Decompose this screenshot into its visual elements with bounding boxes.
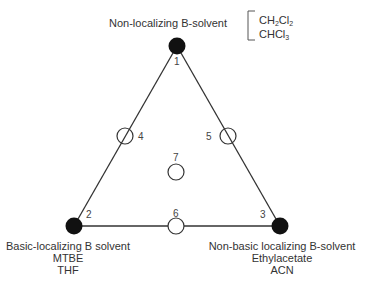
mixture-node-7 <box>168 164 184 180</box>
node-number-3: 3 <box>260 210 266 220</box>
vertex-node-2 <box>66 218 83 235</box>
vertex-1-examples: CH2Cl2 CHCl3 <box>259 13 293 41</box>
vertex-3-title: Non-basic localizing B-solvent <box>209 240 356 252</box>
vertex-2-example-1: MTBE <box>6 252 130 264</box>
vertex-1-label: Non-localizing B-solvent <box>109 17 227 29</box>
vertex-2-label: Basic-localizing B solvent MTBE THF <box>6 240 130 276</box>
mixture-node-6 <box>168 218 184 234</box>
node-number-2: 2 <box>86 210 92 220</box>
edge-1-3 <box>177 46 280 226</box>
example-dichloromethane: CH2Cl2 <box>259 13 293 27</box>
node-number-1: 1 <box>174 57 180 67</box>
vertex-3-label: Non-basic localizing B-solvent Ethylacet… <box>209 240 356 276</box>
examples-bracket <box>248 11 255 40</box>
node-number-6: 6 <box>173 209 179 219</box>
vertex-2-title: Basic-localizing B solvent <box>6 240 130 252</box>
example-chloroform: CHCl3 <box>259 27 293 41</box>
vertex-node-3 <box>272 218 289 235</box>
node-number-7: 7 <box>173 153 179 163</box>
node-number-4: 4 <box>138 132 144 142</box>
vertex-node-1 <box>169 38 186 55</box>
edge-1-2 <box>74 46 177 226</box>
vertex-3-example-1: Ethylacetate <box>209 252 356 264</box>
vertex-3-example-2: ACN <box>209 264 356 276</box>
node-number-5: 5 <box>206 132 212 142</box>
vertex-2-example-2: THF <box>6 264 130 276</box>
